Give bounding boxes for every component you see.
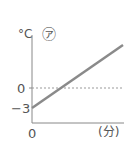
x-unit-label: (分) (98, 126, 119, 138)
y-unit-label: °C (18, 28, 32, 40)
y-tick-minus3: −3 (11, 102, 30, 115)
y-tick-zero: 0 (17, 82, 25, 95)
x-origin-label: 0 (28, 127, 36, 140)
series-marker-label: ㋐ (42, 27, 56, 41)
series-line (32, 45, 123, 108)
